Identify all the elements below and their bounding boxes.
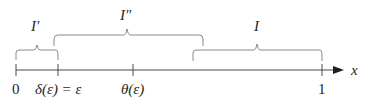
label-i-double-prime: I″ <box>119 7 132 23</box>
label-i-prime: I′ <box>30 18 40 34</box>
bracket-i-double-prime: I″ <box>54 7 203 46</box>
interval-diagram: x 0 δ(ε) = ε θ(ε) 1 I′ I″ I <box>0 0 370 104</box>
tick-label-1: 1 <box>318 81 326 97</box>
tick-label-theta: θ(ε) <box>121 81 144 98</box>
bracket-i-prime: I′ <box>16 18 58 60</box>
brace-i <box>193 44 322 61</box>
tick-label-delta: δ(ε) = ε <box>35 81 81 98</box>
tick-label-0: 0 <box>12 81 20 97</box>
x-axis: x <box>16 62 358 78</box>
tick-labels: 0 δ(ε) = ε θ(ε) 1 <box>12 81 326 98</box>
bracket-i: I <box>193 18 322 61</box>
axis-variable-label: x <box>350 62 358 78</box>
brace-i-double-prime <box>54 29 203 46</box>
axis-arrow-icon <box>333 66 344 74</box>
brace-i-prime <box>16 45 58 60</box>
label-i: I <box>253 18 260 34</box>
